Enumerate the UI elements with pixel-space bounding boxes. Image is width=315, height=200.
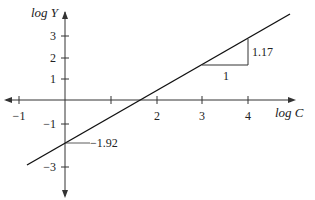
x-tick-label: 3 xyxy=(199,109,205,123)
y-axis-down-arrow-icon xyxy=(62,190,68,198)
y-axis-title: log Y xyxy=(31,5,60,20)
y-tick-label: −3 xyxy=(43,160,56,174)
y-tick-label: 1 xyxy=(50,72,56,86)
y-tick-label: −1 xyxy=(43,117,56,131)
regression-line xyxy=(27,14,290,165)
log-log-chart: −1 2 3 4 3 2 1 −1 −3 log Y log C 1 1.17 … xyxy=(0,0,315,200)
x-tick-label: −1 xyxy=(13,109,26,123)
x-axis-right-arrow-icon xyxy=(288,97,296,103)
slope-rise-label: 1.17 xyxy=(252,45,273,59)
intercept-label: −1.92 xyxy=(90,136,118,150)
x-axis-title: log C xyxy=(275,105,304,120)
x-tick-label: 4 xyxy=(245,109,251,123)
y-tick-label: 3 xyxy=(50,29,56,43)
slope-run-label: 1 xyxy=(223,69,229,83)
y-tick-label: 2 xyxy=(50,51,56,65)
x-tick-label: 2 xyxy=(154,109,160,123)
x-axis-left-arrow-icon xyxy=(4,97,12,103)
y-axis-up-arrow-icon xyxy=(62,11,68,19)
